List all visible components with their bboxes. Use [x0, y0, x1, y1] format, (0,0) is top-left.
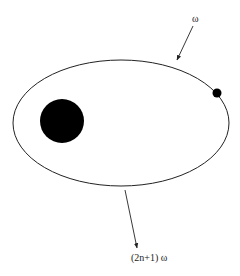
outgoing-frequency-label: (2n+1) ω [131, 252, 168, 264]
orbiting-body [213, 89, 222, 98]
outgoing-wave-arrow [125, 190, 137, 248]
incoming-wave-arrow [177, 26, 193, 60]
incoming-frequency-label: ω [192, 13, 199, 24]
orbit-diagram: ω (2n+1) ω [0, 0, 240, 276]
central-body [40, 99, 84, 143]
